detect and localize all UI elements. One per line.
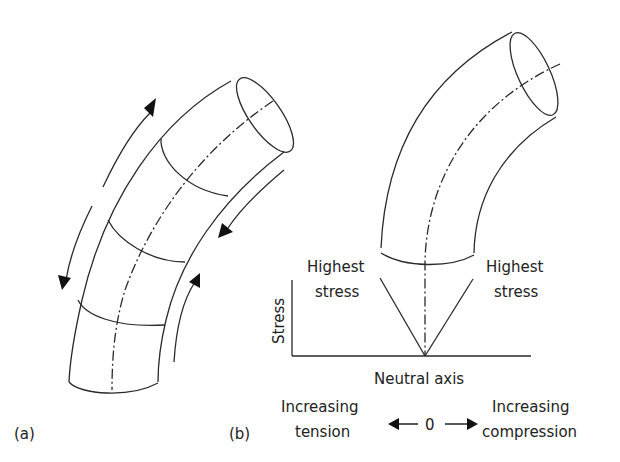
stress-axis-label: Stress: [270, 298, 288, 344]
compression-label-line1: Increasing: [492, 398, 569, 416]
arrow-right-icon: [467, 418, 478, 430]
arrow-a-compression-up-line: [174, 282, 195, 362]
pipe-b-right-edge: [474, 117, 556, 253]
pipe-a-ring-2: [108, 220, 185, 262]
zero-label: 0: [425, 416, 435, 434]
arrow-a-compression-down-line: [228, 170, 284, 228]
panel-a-label: (a): [14, 425, 35, 443]
highest-stress-right-line2: stress: [494, 283, 539, 301]
pipe-a-top-end: [227, 70, 304, 160]
arrow-a-compression-down-head: [218, 223, 233, 238]
pipe-b-top-end: [500, 26, 567, 121]
neutral-axis-label: Neutral axis: [374, 370, 464, 388]
pipe-a-ring-1: [161, 139, 228, 196]
highest-stress-right-line1: Highest: [486, 258, 544, 276]
highest-stress-left-line1: Highest: [307, 258, 365, 276]
arrow-a-tension-up-head: [144, 98, 156, 117]
compression-stress-line: [425, 279, 473, 356]
arrow-left-icon: [388, 418, 399, 430]
pipe-a-bottom-end: [69, 382, 158, 393]
pipe-a-centerline: [112, 101, 273, 390]
panel-b-bent-pipe: [381, 26, 568, 355]
compression-label-line2: compression: [482, 423, 577, 441]
arrow-a-tension-down-line: [66, 206, 92, 280]
pipe-b-bottom-end: [381, 253, 474, 265]
pipe-b-left-edge: [381, 32, 512, 248]
panel-b-label: (b): [229, 425, 250, 443]
panel-a-bent-pipe: [58, 70, 303, 393]
tension-label-line1: Increasing: [281, 398, 358, 416]
arrow-a-tension-up-line: [103, 113, 150, 187]
bending-stress-diagram: (a) Highest stress Highest stress Stress…: [0, 0, 620, 462]
arrow-a-tension-down-head: [58, 275, 71, 290]
tension-label-line2: tension: [295, 423, 350, 441]
tension-stress-line: [380, 278, 425, 356]
pipe-b-centerline: [425, 64, 560, 355]
highest-stress-left-line2: stress: [315, 283, 360, 301]
arrow-a-compression-up-head: [189, 273, 200, 288]
